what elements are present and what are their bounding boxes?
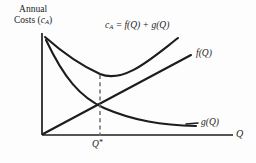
gq-leader-line (186, 123, 198, 124)
optimum-star: * (99, 138, 103, 147)
fixed-cost-line (43, 55, 191, 134)
holding-cost-curve-label: g(Q) (201, 117, 219, 128)
cost-tradeoff-figure: Annual Costs (cA) cA = f(Q) + g(Q) f(Q) … (0, 0, 256, 163)
optimum-symbol: Q (92, 139, 99, 149)
total-cost-curve-label: cA = f(Q) + g(Q) (105, 20, 169, 31)
holding-cost-curve (46, 40, 196, 126)
total-cost-expression: = f(Q) + g(Q) (113, 20, 169, 30)
y-axis-title-line1: Annual (19, 4, 47, 14)
y-axis-title-prefix: Costs ( (14, 15, 41, 25)
x-axis-label: Q (236, 128, 243, 139)
total-cost-curve (45, 37, 178, 76)
y-axis-title-line2: Costs (cA) (14, 15, 52, 26)
y-axis-title-suffix: ) (49, 15, 52, 25)
fixed-cost-line-label: f(Q) (196, 48, 212, 59)
y-axis-title: Annual Costs (cA) (14, 4, 52, 25)
optimum-tick-label: Q* (92, 139, 103, 150)
